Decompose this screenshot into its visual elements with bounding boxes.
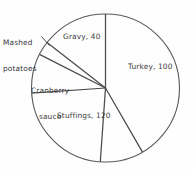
pie-spoke-stuffings-cranberry: [100, 88, 105, 162]
pie-label-cranberry-sauce-line1: Cranberry: [31, 87, 69, 96]
pie-label-gravy: Gravy, 40: [63, 33, 101, 42]
pie-label-turkey: Turkey, 100: [128, 63, 173, 72]
pie-chart-figure: Mashed potatoes Gravy, 40 Turkey, 100 Cr…: [0, 0, 194, 170]
pie-label-stuffings: Stuffings, 120: [57, 112, 111, 121]
pie-label-mashed-potatoes-line1: Mashed: [3, 39, 37, 48]
pie-spoke-turkey-stuffings: [106, 88, 143, 152]
pie-label-cranberry-sauce: Cranberry sauce: [31, 70, 69, 139]
